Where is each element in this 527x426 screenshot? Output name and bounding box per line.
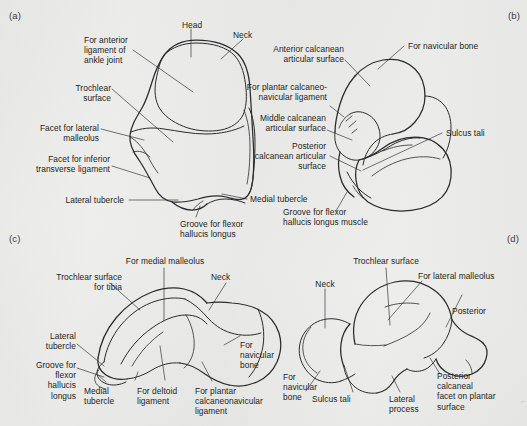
label-b-middle-calcanean: Middle calcanean articular surface xyxy=(248,113,326,133)
panel-tag-b: (b) xyxy=(508,10,520,21)
label-c-lateral-tubercle: Lateral tubercle xyxy=(34,331,76,351)
label-b-sulcus-tali: Sulcus tali xyxy=(446,128,506,138)
label-c-for-navicular-bone: For navicular bone xyxy=(240,340,280,371)
panel-tag-d: (d) xyxy=(507,233,519,244)
label-a-lateral-tubercle: Lateral tubercle xyxy=(58,195,124,205)
label-b-anterior-calcanean: Anterior calcanean articular surface xyxy=(264,44,344,64)
label-d-trochlear-surface: Trochlear surface xyxy=(345,256,427,266)
label-d-posterior: Posterior xyxy=(452,306,506,316)
label-a-facet-lateral-malleolus: Facet for lateral malleolus xyxy=(32,123,99,143)
label-a-medial-tubercle: Medial tubercle xyxy=(250,194,312,204)
scan-artifact-mark: ⌐ xyxy=(521,398,525,405)
label-b-for-navicular-bone: For navicular bone xyxy=(408,41,498,51)
label-a-facet-inferior-transverse: Facet for inferior transverse ligament xyxy=(28,154,110,174)
label-b-posterior-calcanean: Posterior calcanean articular surface xyxy=(248,141,326,172)
label-d-neck: Neck xyxy=(307,279,343,289)
label-c-for-plantar-calcaneonavicular: For plantar calcaneonavicular ligament xyxy=(195,386,277,417)
label-c-trochlear-surface-tibia: Trochlear surface for tibia xyxy=(48,272,122,292)
label-b-groove-flexor-hallucis: Groove for flexor hallucis longus muscle xyxy=(283,207,383,227)
anatomy-figure: (a) Head Neck For anterior ligament of a… xyxy=(0,0,527,426)
label-d-lateral-process: Lateral process xyxy=(389,394,433,414)
label-c-for-medial-malleolus: For medial malleolus xyxy=(118,256,212,266)
panel-tag-c: (c) xyxy=(9,233,21,244)
label-d-sulcus-tali: Sulcus tali xyxy=(312,394,368,404)
label-d-for-lateral-malleolus: For lateral malleolus xyxy=(418,271,514,281)
panel-tag-a: (a) xyxy=(9,10,21,21)
label-a-neck: Neck xyxy=(233,30,273,40)
label-a-groove-flexor-hallucis: Groove for flexor hallucis longus xyxy=(180,219,260,239)
label-d-posterior-calcaneal-facet: Posterior calcaneal facet on plantar sur… xyxy=(437,371,503,412)
label-a-anterior-ligament: For anterior ligament of ankle joint xyxy=(84,35,146,66)
label-c-for-deltoid-ligament: For deltoid ligament xyxy=(137,386,195,406)
label-c-neck: Neck xyxy=(211,272,247,282)
label-c-medial-tubercle: Medial tubercle xyxy=(84,386,130,406)
label-c-groove-flexor-hallucis: Groove for flexor hallucis longus xyxy=(26,360,76,401)
label-b-plantar-calcaneonavicular: For plantar calcaneo- navicular ligament xyxy=(243,82,327,102)
label-a-head: Head xyxy=(174,20,210,30)
label-a-trochlear-surface: Trochlear surface xyxy=(58,83,111,103)
